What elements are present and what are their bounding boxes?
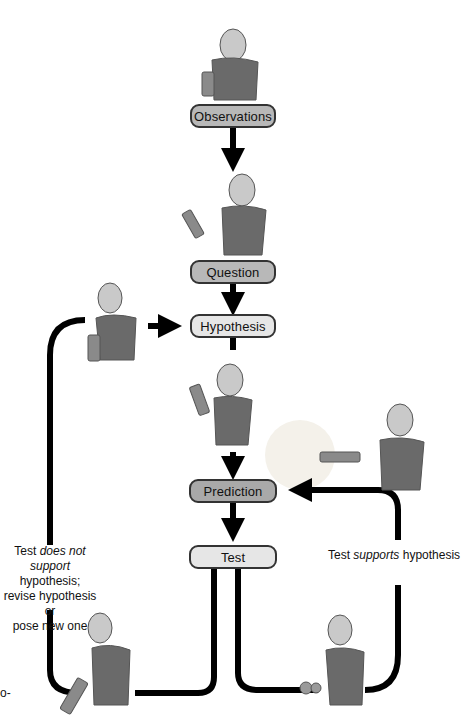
hypothesis-node: Hypothesis [190, 314, 276, 338]
observations-node: Observations [190, 104, 276, 128]
flowchart: Observations Question Hypothesis Predict… [0, 0, 468, 725]
edge-fragment-text: o- [0, 686, 20, 701]
woman-revising-icon [88, 283, 136, 361]
question-node: Question [190, 260, 276, 284]
supported-label: Test supports hypothesis [328, 548, 468, 563]
test-node: Test [189, 545, 277, 569]
prediction-node: Prediction [189, 479, 277, 503]
woman-flashlight-icon [320, 404, 424, 490]
woman-idea-icon [189, 364, 252, 445]
woman-questioning-icon [182, 174, 266, 255]
not-supported-label: Test does not support hypothesis; revise… [0, 544, 100, 634]
woman-observing-icon [202, 29, 258, 100]
woman-examining-success-icon [300, 615, 364, 705]
